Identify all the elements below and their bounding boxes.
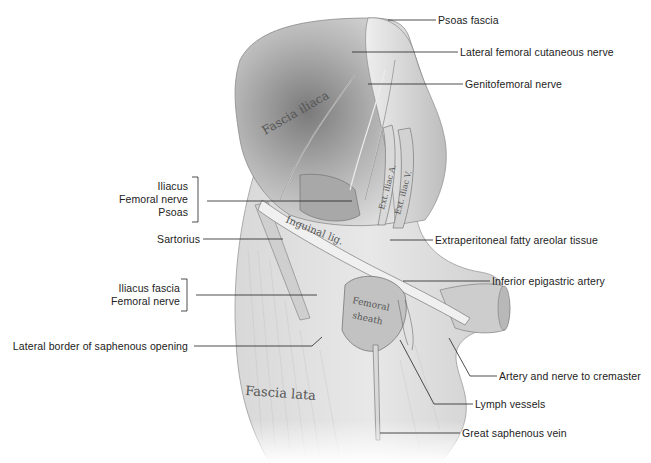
label-artery-nerve-cremaster: Artery and nerve to cremaster <box>499 370 641 382</box>
label-psoas-fascia: Psoas fascia <box>438 14 499 26</box>
label-inferior-epigastric-artery: Inferior epigastric artery <box>492 275 605 287</box>
label-psoas: Psoas <box>158 206 188 218</box>
label-lymph-vessels: Lymph vessels <box>475 398 545 410</box>
label-femoral-nerve-1: Femoral nerve <box>119 193 188 205</box>
label-great-saphenous-vein: Great saphenous vein <box>462 427 567 439</box>
label-iliacus-fascia: Iliacus fascia <box>118 282 180 294</box>
label-lateral-border-saphenous-opening: Lateral border of saphenous opening <box>13 340 188 352</box>
label-iliacus: Iliacus <box>158 180 188 192</box>
label-genitofemoral-nerve: Genitofemoral nerve <box>465 78 562 90</box>
label-femoral-nerve-2: Femoral nerve <box>111 295 180 307</box>
label-extraperitoneal-tissue: Extraperitoneal fatty areolar tissue <box>435 234 598 246</box>
label-sartorius: Sartorius <box>157 233 200 245</box>
label-lateral-femoral-cutaneous-nerve: Lateral femoral cutaneous nerve <box>460 46 614 58</box>
anatomy-illustration: Ext. iliac A. Ext. iliac V. Fascia iliac… <box>0 0 651 463</box>
